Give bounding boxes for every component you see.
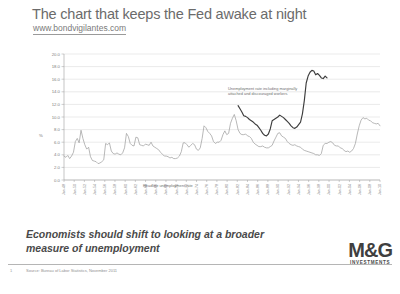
svg-text:Jan-78: Jan-78 xyxy=(215,184,219,195)
slide: The chart that keeps the Fed awake at ni… xyxy=(0,0,400,294)
footer-divider xyxy=(8,264,392,265)
website-link[interactable]: www.bondvigilantes.com xyxy=(33,24,126,35)
annotation-u6-series: Unemployment rate including marginallyat… xyxy=(228,86,297,96)
svg-text:0.0: 0.0 xyxy=(54,178,61,183)
svg-text:12.0: 12.0 xyxy=(52,102,61,107)
annotation-headline-series: Headline unemployment rate xyxy=(143,183,193,188)
svg-text:Jan-76: Jan-76 xyxy=(205,184,209,195)
svg-text:Jan-62: Jan-62 xyxy=(134,184,138,195)
svg-text:8.0: 8.0 xyxy=(54,127,61,132)
mg-logo: M&G INVESTMENTS xyxy=(348,240,392,266)
svg-text:Jan-04: Jan-04 xyxy=(348,184,352,195)
svg-text:Jan-98: Jan-98 xyxy=(317,184,321,195)
svg-text:14.0: 14.0 xyxy=(52,89,61,94)
svg-text:Jan-94: Jan-94 xyxy=(297,184,301,195)
svg-text:Jan-06: Jan-06 xyxy=(358,184,362,195)
unemployment-chart: 0.02.04.06.08.010.012.014.016.018.020.0J… xyxy=(20,48,388,226)
svg-text:Jan-96: Jan-96 xyxy=(307,184,311,195)
svg-text:Jan-82: Jan-82 xyxy=(236,184,240,195)
svg-text:Jan-50: Jan-50 xyxy=(73,184,77,195)
page-number: 1 xyxy=(10,268,12,273)
svg-text:Jan-10: Jan-10 xyxy=(378,184,382,195)
logo-tagline: INVESTMENTS xyxy=(348,260,392,266)
chart-canvas: 0.02.04.06.08.010.012.014.016.018.020.0J… xyxy=(20,48,388,226)
svg-text:Jan-80: Jan-80 xyxy=(225,184,229,195)
svg-text:Jan-08: Jan-08 xyxy=(368,184,372,195)
svg-text:Jan-00: Jan-00 xyxy=(327,184,331,195)
svg-text:Jan-92: Jan-92 xyxy=(287,184,291,195)
svg-text:Jan-60: Jan-60 xyxy=(124,184,128,195)
svg-text:Jan-56: Jan-56 xyxy=(103,184,107,195)
svg-text:2.0: 2.0 xyxy=(54,165,61,170)
svg-text:6.0: 6.0 xyxy=(54,140,61,145)
svg-text:Jan-84: Jan-84 xyxy=(246,184,250,195)
svg-text:4.0: 4.0 xyxy=(54,152,61,157)
svg-text:Jan-88: Jan-88 xyxy=(266,184,270,195)
svg-text:16.0: 16.0 xyxy=(52,77,61,82)
logo-wordmark: M&G xyxy=(348,240,392,260)
svg-text:Jan-74: Jan-74 xyxy=(195,184,199,195)
svg-text:Jan-02: Jan-02 xyxy=(338,184,342,195)
svg-text:Jan-86: Jan-86 xyxy=(256,184,260,195)
svg-text:Jan-58: Jan-58 xyxy=(113,184,117,195)
svg-text:Jan-54: Jan-54 xyxy=(93,184,97,195)
svg-text:Jan-48: Jan-48 xyxy=(62,184,66,195)
svg-text:10.0: 10.0 xyxy=(52,115,61,120)
svg-text:Jan-52: Jan-52 xyxy=(83,184,87,195)
page-title: The chart that keeps the Fed awake at ni… xyxy=(32,6,306,22)
svg-text:18.0: 18.0 xyxy=(52,64,61,69)
svg-text:Jan-90: Jan-90 xyxy=(276,184,280,195)
slide-caption: Economists should shift to looking at a … xyxy=(26,228,286,255)
source-note: Source: Bureau of Labor Statistics, Nove… xyxy=(26,268,117,273)
svg-text:20.0: 20.0 xyxy=(52,52,61,57)
